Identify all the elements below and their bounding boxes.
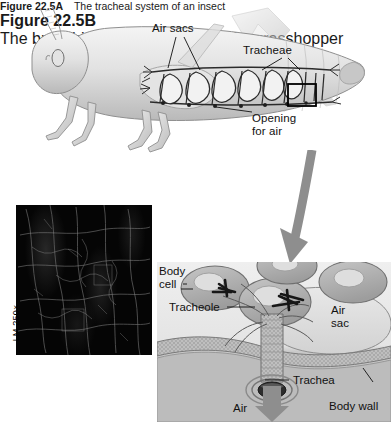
label-tracheole: Tracheole	[169, 301, 220, 314]
label-body-cell: Body cell	[159, 265, 185, 290]
tracheole-detail-illustration	[157, 262, 391, 422]
micrograph-image	[16, 205, 152, 355]
label-tracheae: Tracheae	[243, 44, 292, 57]
trachea-tube	[261, 314, 283, 382]
label-trachea: Trachea	[293, 374, 335, 387]
grasshopper-illustration	[0, 0, 391, 155]
figure-a-panel: Air sacs Tracheae Opening for air	[0, 0, 391, 155]
label-air-sac: Air sac	[331, 304, 349, 329]
label-body-wall: Body wall	[329, 400, 378, 413]
figure-c-panel: Body cell Tracheole Air sac Trachea Body…	[157, 262, 391, 422]
label-air-sacs: Air sacs	[152, 22, 194, 35]
magnification-label: LM 250×	[11, 293, 21, 353]
label-air: Air	[233, 402, 247, 415]
label-opening-for-air: Opening for air	[252, 112, 296, 137]
eye	[52, 50, 64, 67]
connector-arrow	[250, 150, 391, 275]
figure-sheet: Air sacs Tracheae Opening for air Figure…	[0, 0, 391, 433]
